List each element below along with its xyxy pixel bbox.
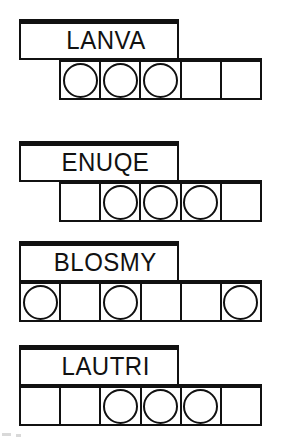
cell[interactable] — [101, 388, 141, 424]
word-box-blosmy: BLOSMY — [19, 241, 179, 282]
word-label: ENUQE — [48, 150, 149, 176]
cell[interactable] — [61, 184, 101, 220]
circle-token-icon — [223, 285, 258, 320]
cell[interactable] — [142, 388, 182, 424]
word-box-lautri: LAUTRI — [19, 345, 179, 386]
circle-token-icon — [183, 185, 218, 220]
cell-strip-blosmy — [19, 280, 262, 322]
circle-token-icon — [63, 63, 98, 98]
cell[interactable] — [182, 62, 222, 98]
word-label: LAUTRI — [48, 354, 150, 380]
circle-token-icon — [143, 185, 178, 220]
cell[interactable] — [21, 284, 61, 320]
cell-strip-lanva — [59, 58, 262, 100]
cell[interactable] — [222, 62, 260, 98]
cell[interactable] — [222, 284, 260, 320]
circle-token-icon — [103, 63, 138, 98]
word-label: LANVA — [53, 28, 146, 54]
circle-token-icon — [143, 63, 178, 98]
circle-token-icon — [103, 285, 138, 320]
cell[interactable] — [141, 62, 181, 98]
cell[interactable] — [61, 284, 101, 320]
cell[interactable] — [141, 184, 181, 220]
cell[interactable] — [142, 284, 182, 320]
cell[interactable] — [61, 62, 101, 98]
cell[interactable] — [182, 284, 222, 320]
circle-token-icon — [143, 389, 178, 424]
cell[interactable] — [101, 62, 141, 98]
cell[interactable] — [61, 388, 101, 424]
cell[interactable] — [101, 284, 141, 320]
word-label: BLOSMY — [41, 250, 157, 276]
puzzle-sheet: LANVA ENUQE BLOSMY — [0, 0, 281, 443]
circle-token-icon — [23, 285, 58, 320]
scan-artifact — [16, 434, 21, 437]
cell-strip-lautri — [19, 384, 262, 426]
circle-token-icon — [103, 185, 138, 220]
word-box-lanva: LANVA — [19, 19, 179, 60]
circle-token-icon — [183, 389, 218, 424]
scan-artifact — [2, 433, 11, 436]
cell-strip-enuqe — [59, 180, 262, 222]
cell[interactable] — [182, 184, 222, 220]
cell[interactable] — [222, 388, 260, 424]
cell[interactable] — [21, 388, 61, 424]
cell[interactable] — [182, 388, 222, 424]
word-box-enuqe: ENUQE — [19, 141, 179, 182]
circle-token-icon — [103, 389, 138, 424]
cell[interactable] — [101, 184, 141, 220]
cell[interactable] — [222, 184, 260, 220]
